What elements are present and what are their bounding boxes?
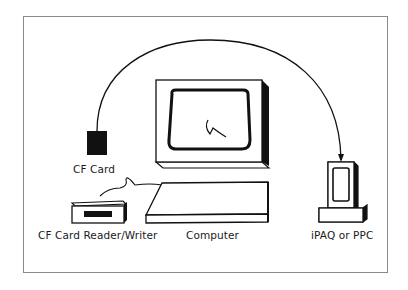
reader-cable	[100, 178, 162, 196]
cf-card-icon	[87, 131, 107, 155]
ipaq-icon	[319, 162, 367, 222]
card-reader-label: CF Card Reader/Writer	[38, 229, 157, 241]
computer-label: Computer	[186, 229, 239, 241]
cf-card-label: CF Card	[73, 163, 115, 175]
ipaq-label: iPAQ or PPC	[311, 229, 373, 241]
diagram-canvas	[0, 0, 408, 290]
monitor-icon	[156, 80, 269, 168]
keyboard-icon	[146, 182, 268, 223]
card-reader-icon	[72, 201, 127, 223]
